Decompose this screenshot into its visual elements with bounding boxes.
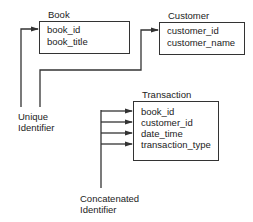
transaction-field-3: date_time (141, 128, 183, 139)
unique-identifier-label-line2: Identifier (18, 122, 54, 133)
transaction-field-1: book_id (141, 106, 174, 117)
customer-field-2: customer_name (167, 37, 235, 48)
concatenated-identifier-label-line1: Concatenated (80, 193, 139, 204)
book-entity-title: Book (48, 9, 70, 20)
concatenated-identifier-label-line2: Identifier (80, 204, 116, 215)
unique-identifier-label-line1: Unique (18, 111, 48, 122)
customer-entity-title: Customer (168, 10, 209, 21)
book-field-1: book_id (47, 24, 80, 35)
transaction-field-2: customer_id (141, 117, 193, 128)
customer-field-1: customer_id (167, 25, 219, 36)
transaction-entity-title: Transaction (142, 89, 191, 100)
transaction-field-4: transaction_type (141, 139, 211, 150)
book-field-2: book_title (47, 36, 88, 47)
arrow-to-book (21, 29, 38, 107)
